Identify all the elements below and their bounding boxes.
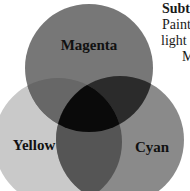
side-line-2: light	[161, 33, 187, 49]
magenta-label: Magenta	[61, 37, 118, 53]
yellow-label: Yellow	[13, 137, 56, 153]
side-line-1: Paint	[162, 17, 190, 33]
cyan-label: Cyan	[135, 139, 170, 155]
side-line-3: M	[182, 49, 190, 65]
side-heading: Subt	[162, 1, 190, 17]
